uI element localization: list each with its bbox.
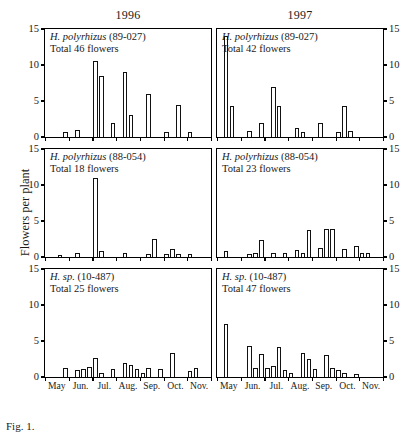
x-tick <box>69 257 70 261</box>
bar <box>164 254 169 257</box>
bar <box>247 254 252 257</box>
y-tick-5 <box>41 340 45 341</box>
y-tick-label-5: 5 <box>389 216 409 227</box>
y-tick-5 <box>41 100 45 101</box>
x-tick <box>45 137 46 141</box>
bar <box>75 253 80 257</box>
y-tick-5 <box>41 220 45 221</box>
y-tick-label-15: 15 <box>19 24 39 35</box>
bar <box>336 370 341 377</box>
x-axis-label-aug: Aug. <box>288 381 312 391</box>
y-tick-label-10: 10 <box>19 300 39 311</box>
bar <box>271 253 276 257</box>
x-tick <box>116 257 117 261</box>
bar <box>342 373 347 377</box>
x-tick <box>288 137 289 141</box>
y-tick-15 <box>41 148 45 149</box>
x-tick <box>92 137 93 141</box>
x-axis-label-oct: Oct. <box>164 381 188 391</box>
bar <box>283 253 288 257</box>
y-tick-label-10: 10 <box>19 60 39 71</box>
bar <box>360 253 365 257</box>
bar <box>63 368 68 377</box>
plot-area: 051015 <box>45 29 211 137</box>
plot-area: 051015 <box>45 149 211 257</box>
y-tick-label-5: 5 <box>19 216 39 227</box>
y-tick-label-5: 5 <box>19 96 39 107</box>
column-heading-1997: 1997 <box>216 8 384 23</box>
x-tick <box>312 137 313 141</box>
x-tick <box>288 257 289 261</box>
bar <box>146 94 151 137</box>
bar <box>336 132 341 137</box>
y-tick-15 <box>383 28 387 29</box>
bar <box>247 131 252 137</box>
plot-area: 051015MayJun.Jul.Aug.Sep.Oct.Nov. <box>45 269 211 377</box>
bar <box>135 369 140 377</box>
bar <box>164 132 169 137</box>
y-tick-label-0: 0 <box>19 132 39 143</box>
bar <box>123 363 128 377</box>
x-axis-label-oct: Oct. <box>336 381 360 391</box>
bar <box>324 355 329 377</box>
y-tick-label-15: 15 <box>389 24 409 35</box>
bar <box>354 246 359 257</box>
bar <box>111 369 116 377</box>
x-tick <box>312 257 313 261</box>
x-tick <box>241 137 242 141</box>
y-tick-label-5: 5 <box>19 336 39 347</box>
y-tick-10 <box>41 64 45 65</box>
x-axis-label-nov: Nov. <box>359 381 383 391</box>
x-tick <box>116 137 117 141</box>
bar <box>141 373 146 377</box>
bar <box>93 61 98 137</box>
panel-1997-89-027: 051015 H. polyrhizus (89-027) Total 42 f… <box>216 28 384 138</box>
x-tick <box>187 257 188 261</box>
bar <box>170 353 175 377</box>
bar <box>146 254 151 257</box>
y-tick-label-0: 0 <box>389 372 409 383</box>
y-tick-5 <box>383 100 387 101</box>
x-tick <box>264 257 265 261</box>
x-tick <box>383 137 384 141</box>
x-axis-label-sep: Sep. <box>140 381 164 391</box>
y-tick-label-10: 10 <box>389 300 409 311</box>
y-tick-label-10: 10 <box>389 180 409 191</box>
bar <box>170 249 175 257</box>
y-tick-5 <box>383 340 387 341</box>
bar <box>366 253 371 257</box>
y-tick-label-0: 0 <box>389 132 409 143</box>
bar <box>324 229 329 257</box>
y-tick-15 <box>383 268 387 269</box>
figure-caption: Fig. 1. <box>6 420 406 432</box>
bar <box>259 123 264 137</box>
plot-area: 051015 <box>217 29 383 137</box>
bar <box>224 324 229 377</box>
bar <box>271 87 276 137</box>
panel-1996-88-054: 051015 H. polyrhizus (88-054) Total 18 f… <box>44 148 212 258</box>
bar <box>342 249 347 257</box>
x-tick <box>217 257 218 261</box>
y-tick-5 <box>383 220 387 221</box>
x-axis-label-jul: Jul. <box>264 381 288 391</box>
x-axis-label-may: May <box>45 381 69 391</box>
plot-area: 051015 <box>217 149 383 257</box>
plot-area: 051015MayJun.Jul.Aug.Sep.Oct.Nov. <box>217 269 383 377</box>
bar <box>259 354 264 377</box>
bar <box>289 373 294 377</box>
bar <box>188 371 193 377</box>
x-tick <box>187 137 188 141</box>
bar <box>253 368 258 377</box>
bar <box>283 370 288 377</box>
bar <box>259 240 264 257</box>
bar <box>111 123 116 137</box>
x-axis-label-may: May <box>217 381 241 391</box>
y-tick-label-10: 10 <box>389 60 409 71</box>
x-axis-label-nov: Nov. <box>187 381 211 391</box>
y-tick-10 <box>41 184 45 185</box>
x-axis-label-aug: Aug. <box>116 381 140 391</box>
y-tick-label-5: 5 <box>389 336 409 347</box>
y-tick-15 <box>41 28 45 29</box>
bar <box>295 128 300 137</box>
y-tick-label-0: 0 <box>19 252 39 263</box>
